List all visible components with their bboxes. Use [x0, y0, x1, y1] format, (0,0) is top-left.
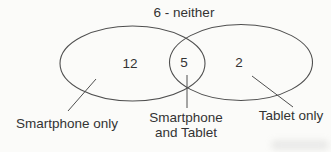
tablet-only-label: Tablet only	[259, 108, 324, 123]
both-label-line2: and Tablet	[155, 125, 217, 140]
venn-svg: 6 - neither 12 5 2 Smartphone only Smart…	[0, 0, 331, 152]
smartphone-only-label: Smartphone only	[16, 116, 118, 131]
scan-artifact	[271, 140, 329, 150]
smartphone-only-count: 12	[122, 56, 137, 71]
neither-label: 6 - neither	[154, 5, 215, 20]
tablet-only-count: 2	[235, 55, 243, 70]
both-count: 5	[180, 55, 188, 70]
venn-figure: 6 - neither 12 5 2 Smartphone only Smart…	[0, 0, 331, 152]
both-label-line1: Smartphone	[149, 110, 223, 125]
